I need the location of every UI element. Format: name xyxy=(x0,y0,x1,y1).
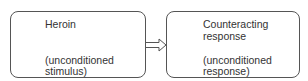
stimulus-title: Heroin xyxy=(45,18,76,30)
unconditioned-response-box: Counteracting response (unconditioned re… xyxy=(166,11,300,78)
unconditioned-stimulus-box: Heroin (unconditioned stimulus) xyxy=(10,11,146,78)
response-title-line2: response xyxy=(203,30,246,42)
hollow-right-arrow-icon xyxy=(146,38,167,52)
response-label-line2: response) xyxy=(203,65,250,77)
response-title-line1: Counteracting xyxy=(203,18,268,30)
stimulus-label-line2: stimulus) xyxy=(45,65,87,77)
